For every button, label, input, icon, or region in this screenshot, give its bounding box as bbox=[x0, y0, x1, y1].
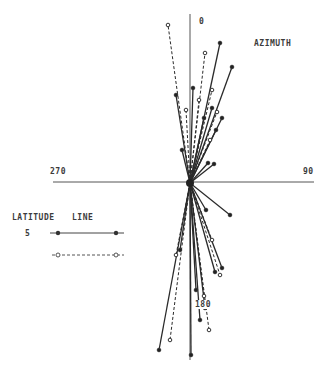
segment-end-marker bbox=[168, 338, 172, 342]
segment-end-marker bbox=[218, 273, 222, 277]
segment-end-marker bbox=[191, 86, 195, 90]
segment-end-marker bbox=[166, 23, 170, 27]
azimuth-chart bbox=[0, 0, 328, 367]
axis-label-right: 90 bbox=[303, 167, 314, 176]
segment-end-marker bbox=[202, 294, 206, 298]
segment-end-marker bbox=[208, 138, 212, 142]
axis-label-top: 0 bbox=[199, 17, 204, 26]
segment-end-marker bbox=[194, 288, 198, 292]
legend-solid-marker-2 bbox=[114, 231, 118, 235]
segment-end-marker bbox=[210, 238, 214, 242]
segment-end-marker bbox=[215, 110, 219, 114]
segment-end-marker bbox=[210, 106, 214, 110]
legend-lines bbox=[50, 231, 124, 257]
segment-end-marker bbox=[230, 65, 234, 69]
segment-end-marker bbox=[206, 161, 210, 165]
segment-end-marker bbox=[220, 116, 224, 120]
segment-end-marker bbox=[218, 41, 222, 45]
legend-dashed-marker-1 bbox=[56, 253, 60, 257]
legend-title-latitude: LATITUDE bbox=[12, 213, 55, 222]
segment-end-marker bbox=[157, 348, 161, 352]
segment-end-marker bbox=[214, 128, 218, 132]
segment-end-marker bbox=[228, 213, 232, 217]
segment-end-marker bbox=[220, 266, 224, 270]
radial-segment bbox=[170, 183, 190, 340]
segment-end-marker bbox=[210, 88, 214, 92]
segment-end-marker bbox=[174, 253, 178, 257]
axis-label-left: 270 bbox=[50, 167, 66, 176]
segment-end-marker bbox=[203, 51, 207, 55]
legend-solid-marker-1 bbox=[56, 231, 60, 235]
azimuth-annotation: AZIMUTH bbox=[254, 39, 291, 48]
segment-end-marker bbox=[207, 328, 211, 332]
axes bbox=[53, 14, 314, 360]
segment-end-marker bbox=[197, 98, 201, 102]
legend-title-line: LINE bbox=[72, 213, 93, 222]
axis-label-bottom: 180 bbox=[195, 300, 211, 309]
segment-end-marker bbox=[189, 353, 193, 357]
segment-end-marker bbox=[212, 162, 216, 166]
radial-segment bbox=[176, 183, 190, 255]
segment-end-marker bbox=[204, 208, 208, 212]
legend-dashed-marker-2 bbox=[114, 253, 118, 257]
segment-end-marker bbox=[180, 148, 184, 152]
legend-entry-label-1: 5 bbox=[25, 229, 30, 238]
segment-end-marker bbox=[198, 318, 202, 322]
segment-end-marker bbox=[184, 108, 188, 112]
center-hub bbox=[186, 179, 194, 187]
radial-segment bbox=[176, 95, 190, 183]
segment-end-marker bbox=[213, 270, 217, 274]
